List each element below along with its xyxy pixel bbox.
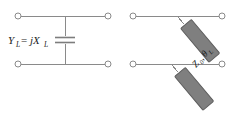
right-bottom-left-terminal bbox=[130, 61, 136, 67]
left-label-symbol-subscript: L bbox=[15, 40, 20, 49]
right-lower-stub-lead bbox=[171, 64, 178, 72]
left-top-left-terminal bbox=[15, 13, 21, 19]
circuit-diagram-figure: Y L = jX L bbox=[0, 0, 240, 118]
right-top-right-terminal bbox=[219, 13, 225, 19]
capacitor-symbol bbox=[55, 38, 75, 43]
right-circuit-group: Z 0 , θ L bbox=[130, 13, 225, 110]
lower-transmission-line-stub bbox=[175, 68, 214, 111]
left-circuit-group: Y L = jX L bbox=[8, 13, 111, 67]
left-bottom-left-terminal bbox=[15, 61, 21, 67]
left-circuit-label: Y L = jX L bbox=[8, 34, 48, 49]
left-top-right-terminal bbox=[105, 13, 111, 19]
right-upper-stub-lead bbox=[177, 16, 184, 24]
left-label-value: jX bbox=[28, 34, 41, 46]
right-bottom-right-terminal bbox=[219, 61, 225, 67]
left-bottom-right-terminal bbox=[105, 61, 111, 67]
right-top-left-terminal bbox=[130, 13, 136, 19]
left-label-value-subscript: L bbox=[43, 40, 48, 49]
left-label-operator: = bbox=[21, 34, 27, 46]
left-label-symbol: Y bbox=[8, 34, 16, 46]
